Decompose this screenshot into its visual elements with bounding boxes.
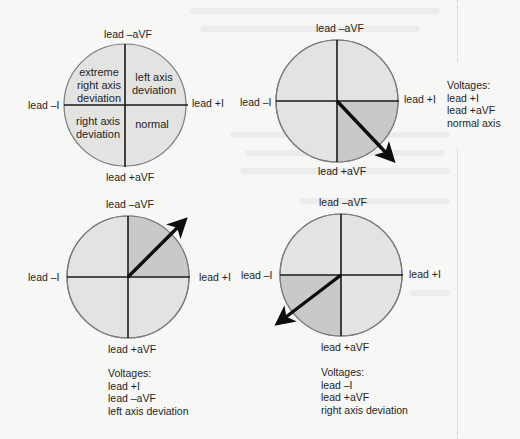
quadrant-text-line: right axis [74, 79, 124, 92]
diagram-3-left-axis-deviation [67, 216, 190, 338]
diagram-4-label-bottom: lead +aVF [321, 341, 369, 353]
quadrant-text-line: deviation [126, 84, 182, 97]
diagram-3-label-top: lead –aVF [106, 198, 154, 210]
caption-line: lead –aVF [108, 392, 189, 405]
diagram-3-caption: Voltages: lead +I lead –aVF left axis de… [108, 367, 189, 417]
quadrant-text-line: right axis [72, 115, 124, 128]
quadrant-right-axis-deviation: right axis deviation [72, 115, 124, 141]
quadrant-text-line: normal [126, 118, 178, 131]
diagram-2-caption: Voltages: lead +I lead +aVF normal axis [447, 79, 501, 129]
diagram-1-label-bottom: lead +aVF [106, 171, 154, 183]
diagram-4-label-top: lead –aVF [319, 196, 367, 208]
diagram-2-label-bottom: lead +aVF [318, 165, 366, 177]
quadrant-text-line: extreme [74, 66, 124, 79]
caption-line: lead +I [108, 380, 189, 393]
diagram-2-label-left: lead –I [240, 96, 272, 108]
quadrant-normal: normal [126, 118, 178, 131]
diagram-4-label-right: lead +I [409, 268, 441, 280]
caption-line: right axis deviation [321, 404, 408, 417]
quadrant-text-line: deviation [72, 128, 124, 141]
diagram-1-label-right: lead +I [192, 97, 224, 109]
diagram-3-label-left: lead –I [28, 271, 60, 283]
diagram-4-label-left: lead –I [241, 269, 273, 281]
diagram-2-label-top: lead –aVF [316, 22, 364, 34]
quadrant-text-line: left axis [126, 71, 182, 84]
diagram-1-reference [64, 44, 188, 167]
diagram-1-label-left: lead –I [28, 99, 60, 111]
caption-line: lead +I [447, 92, 501, 105]
quadrant-text-line: deviation [74, 92, 124, 105]
caption-line: lead +aVF [321, 391, 408, 404]
caption-title: Voltages: [108, 367, 189, 380]
caption-line: left axis deviation [108, 405, 189, 418]
diagram-1-label-top: lead –aVF [104, 28, 152, 40]
caption-title: Voltages: [321, 366, 408, 379]
caption-line: lead +aVF [447, 104, 501, 117]
caption-line: normal axis [447, 117, 501, 130]
diagram-3-label-bottom: lead +aVF [108, 343, 156, 355]
quadrant-extreme-right-axis-deviation: extreme right axis deviation [74, 66, 124, 105]
caption-line: lead –I [321, 379, 408, 392]
diagram-2-normal-axis [276, 40, 399, 162]
quadrant-left-axis-deviation: left axis deviation [126, 71, 182, 97]
diagram-2-label-right: lead +I [404, 93, 436, 105]
diagram-3-label-right: lead +I [199, 271, 231, 283]
caption-title: Voltages: [447, 79, 501, 92]
diagram-4-right-axis-deviation [280, 214, 403, 336]
diagram-4-caption: Voltages: lead –I lead +aVF right axis d… [321, 366, 408, 416]
